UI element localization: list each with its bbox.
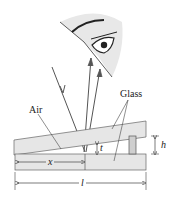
glass-label: Glass xyxy=(120,89,142,99)
h-label: h xyxy=(161,140,166,150)
eye-icon xyxy=(60,14,123,78)
wedge-interference-diagram xyxy=(0,0,176,200)
t-label: t xyxy=(100,143,103,153)
air-label: Air xyxy=(29,105,42,115)
l-label: l xyxy=(79,178,86,188)
x-label: x xyxy=(46,157,54,167)
top-glass-plate xyxy=(14,121,146,155)
spacer xyxy=(129,136,136,154)
